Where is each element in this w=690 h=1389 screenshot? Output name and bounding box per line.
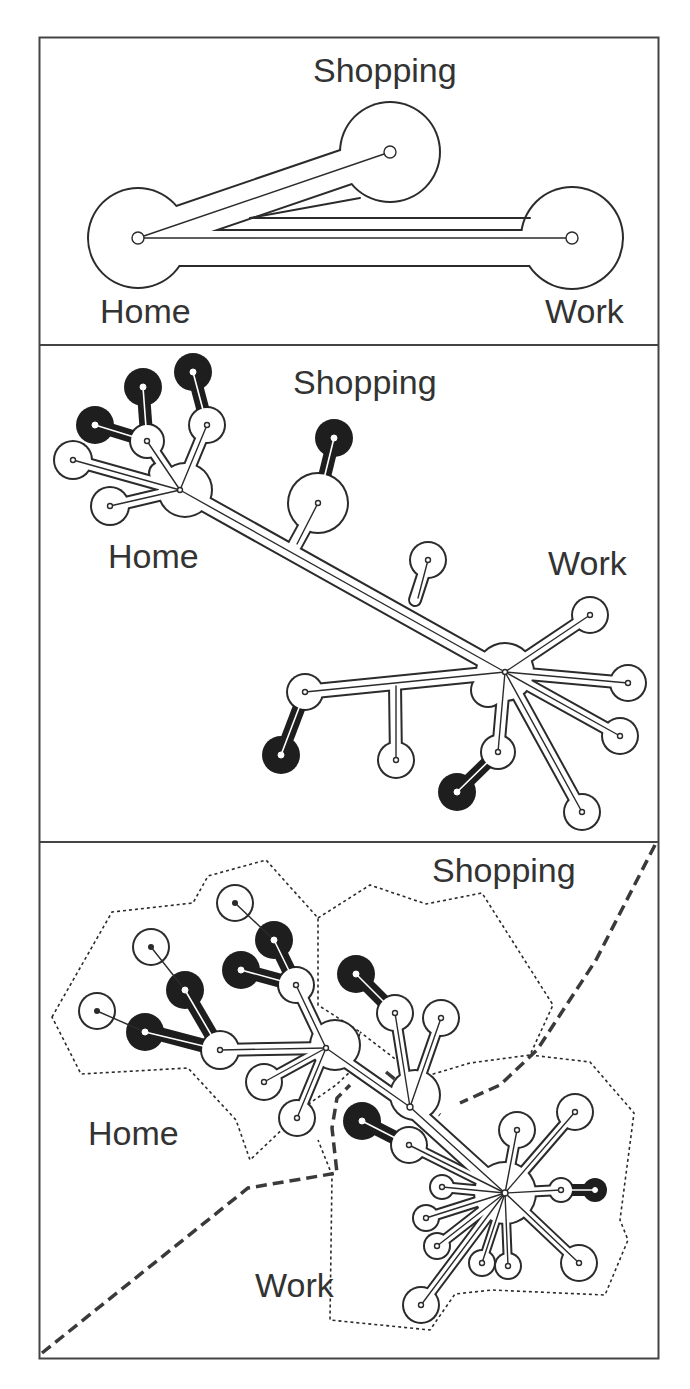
activity-space-diagram: .outline { stroke: #2b2b2b; fill: none; … xyxy=(0,0,690,1389)
label-home-3: Home xyxy=(88,1114,179,1152)
panel-3-partitioned-network xyxy=(42,845,655,1353)
label-work-2: Work xyxy=(548,544,628,582)
panel-2-branching-network xyxy=(53,353,647,831)
label-work-1: Work xyxy=(545,292,625,330)
label-shopping-3: Shopping xyxy=(432,851,576,889)
label-shopping-1: Shopping xyxy=(313,51,457,89)
label-shopping-2: Shopping xyxy=(293,363,437,401)
label-work-3: Work xyxy=(255,1266,335,1304)
label-home-2: Home xyxy=(108,537,199,575)
panel-1-simple-network xyxy=(87,101,624,290)
label-home-1: Home xyxy=(100,292,191,330)
